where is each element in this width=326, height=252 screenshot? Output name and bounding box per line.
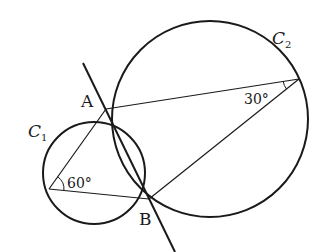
angle-arc-60 [58, 177, 64, 191]
label-point-a: A [80, 91, 94, 111]
label-c1-main: C [28, 121, 41, 141]
diagram-svg: A B 60° 30° C1 C2 [0, 0, 326, 252]
label-angle-30: 30° [244, 91, 269, 107]
label-point-b: B [139, 209, 152, 229]
geometry-diagram: A B 60° 30° C1 C2 [0, 0, 326, 252]
label-angle-60: 60° [67, 175, 92, 191]
label-circle-c2: C2 [272, 28, 291, 50]
label-c1-sub: 1 [41, 132, 47, 143]
angle-arc-30 [283, 82, 286, 90]
label-c2-sub: 2 [285, 39, 291, 50]
segment-qb [149, 79, 299, 199]
circle-c1 [43, 122, 145, 224]
label-c2-main: C [272, 28, 285, 48]
label-circle-c1: C1 [28, 121, 47, 143]
segment-qa [106, 79, 299, 109]
circle-c2 [112, 21, 308, 217]
